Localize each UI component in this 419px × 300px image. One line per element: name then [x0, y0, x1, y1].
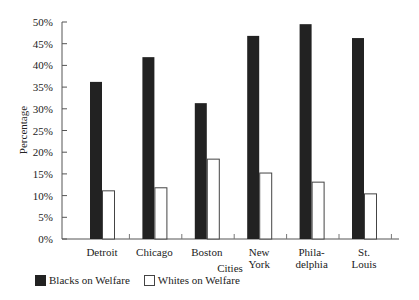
y-axis-label: Percentage	[17, 95, 29, 165]
x-tick-label: Chicago	[124, 246, 184, 258]
legend-label: Whites on Welfare	[158, 274, 240, 286]
bar-blacks	[352, 38, 364, 239]
x-tick-label: Detroit	[72, 246, 132, 258]
bar-blacks	[247, 36, 259, 239]
y-tick-label: 50%	[13, 16, 53, 28]
y-tick-label: 5%	[13, 211, 53, 223]
legend: Blacks on Welfare Whites on Welfare	[35, 274, 254, 286]
bar-blacks	[195, 103, 207, 239]
x-tick-label: St. Louis	[334, 246, 394, 270]
x-axis-label: Cities	[200, 262, 260, 274]
x-tick-label: Boston	[177, 246, 237, 258]
legend-item-whites: Whites on Welfare	[144, 274, 240, 286]
bar-whites	[155, 188, 167, 239]
bar-whites	[207, 159, 219, 239]
y-tick-label: 10%	[13, 190, 53, 202]
bar-whites	[312, 182, 324, 239]
legend-item-blacks: Blacks on Welfare	[35, 274, 130, 286]
bar-whites	[260, 173, 272, 239]
bar-blacks	[142, 57, 154, 239]
bar-whites	[365, 194, 377, 239]
y-tick-label: 35%	[13, 81, 53, 93]
x-tick-label: Phila- delphia	[282, 246, 342, 270]
y-tick-label: 40%	[13, 59, 53, 71]
bar-blacks	[90, 82, 102, 239]
y-tick-label: 45%	[13, 38, 53, 50]
y-tick-label: 0%	[13, 233, 53, 245]
bar-whites	[103, 191, 115, 239]
bar-blacks	[300, 24, 312, 239]
bar-chart: 0%5%10%15%20%25%30%35%40%45%50% DetroitC…	[0, 0, 419, 300]
legend-label: Blacks on Welfare	[49, 274, 130, 286]
legend-swatch-white-icon	[144, 275, 155, 286]
y-tick-label: 15%	[13, 168, 53, 180]
legend-swatch-black-icon	[35, 275, 46, 286]
